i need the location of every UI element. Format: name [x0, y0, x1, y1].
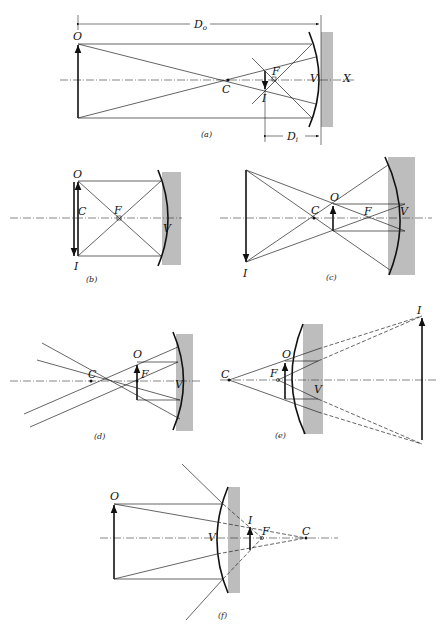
label-image: I: [261, 92, 267, 105]
label-axis-x: X: [342, 72, 352, 85]
label-image: I: [247, 514, 253, 527]
mirror-backing: [228, 487, 240, 593]
label-object: O: [133, 348, 142, 361]
label-object: O: [330, 191, 339, 204]
mirror-backing: [321, 32, 333, 127]
label-focus: F: [113, 204, 122, 217]
label-object-distance: Do: [193, 18, 207, 32]
label-center: C: [302, 525, 311, 538]
label-object: O: [73, 168, 82, 181]
label-center: C: [311, 204, 320, 217]
label-focus: F: [269, 367, 278, 380]
caption-e: (e): [275, 431, 286, 440]
label-object: O: [282, 348, 291, 361]
panel-b: O C F I V (b): [10, 168, 182, 284]
label-image-distance: Di: [286, 130, 298, 144]
label-center: C: [88, 368, 97, 381]
label-center: C: [78, 205, 87, 218]
label-focus: F: [271, 65, 280, 78]
panel-d: O C F V (d): [10, 332, 202, 441]
label-center: C: [222, 83, 231, 96]
mirror-backing: [162, 172, 181, 265]
mirror-diagram-figure: O C F I V X Do Di (a) O C F I V (b): [0, 0, 446, 627]
label-image: I: [416, 304, 422, 317]
label-vertex: V: [175, 378, 184, 391]
label-focus: F: [140, 368, 149, 381]
label-object: O: [110, 490, 119, 503]
label-vertex: V: [400, 205, 409, 218]
label-center: C: [221, 368, 230, 381]
caption-a: (a): [201, 130, 212, 139]
label-focus: F: [261, 525, 270, 538]
panel-c: O C F I V (c): [220, 157, 432, 282]
label-vertex: V: [208, 531, 217, 544]
label-vertex: V: [163, 222, 172, 235]
caption-d: (d): [94, 432, 105, 441]
caption-c: (c): [326, 273, 337, 282]
label-image: I: [73, 260, 79, 273]
label-vertex: V: [310, 72, 319, 85]
caption-f: (f): [218, 611, 227, 620]
label-object: O: [73, 30, 82, 43]
caption-b: (b): [86, 275, 97, 284]
panel-a: O C F I V X Do Di (a): [60, 15, 355, 145]
label-vertex: V: [314, 383, 323, 396]
label-focus: F: [363, 205, 372, 218]
mirror-backing: [303, 324, 323, 434]
convex-mirror-f: [217, 487, 228, 593]
panel-f: O C F I V (f): [100, 464, 338, 620]
panel-e: O C F I V (e): [220, 304, 436, 444]
label-image: I: [242, 267, 248, 280]
